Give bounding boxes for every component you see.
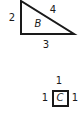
square-name-label: C [57,93,64,103]
triangle-hypotenuse-label: 4 [50,5,56,15]
square-right-side-label: 1 [72,93,78,103]
square-top-side-label: 1 [56,76,62,86]
square-left-side-label: 1 [42,93,48,103]
triangle-name-label: B [35,19,42,29]
triangle-left-side-label: 2 [9,13,15,23]
triangle-bottom-side-label: 3 [43,40,49,50]
